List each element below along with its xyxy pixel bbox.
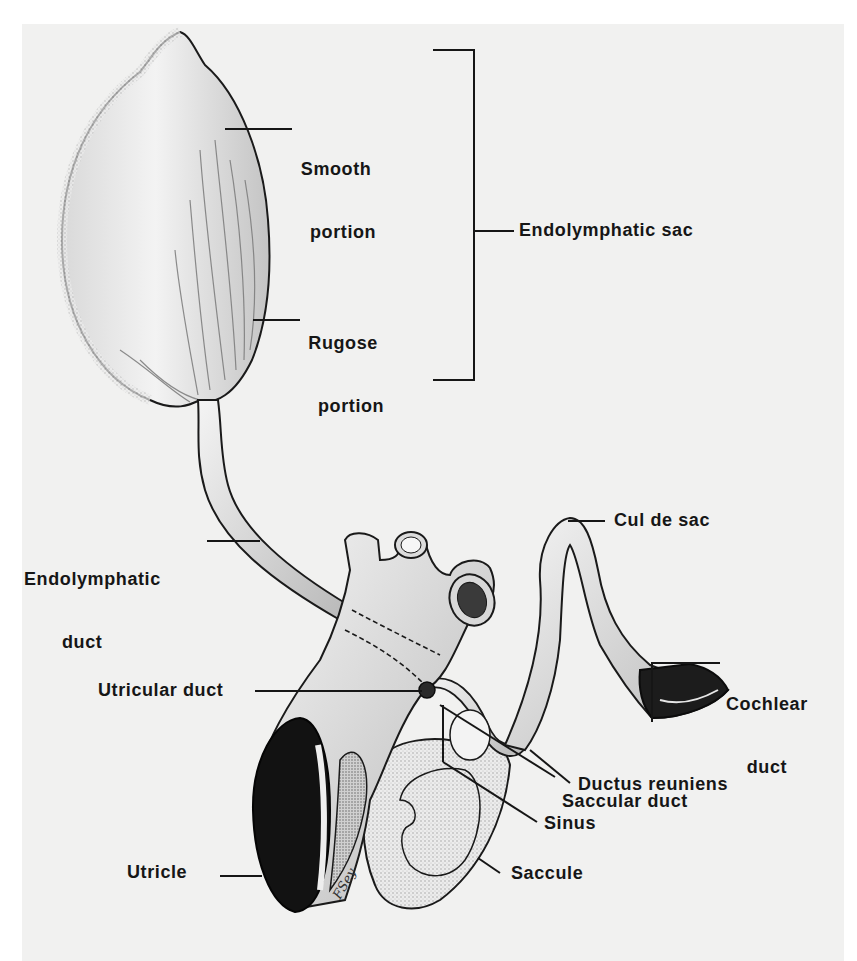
label-rugose-portion: Rugose portion — [302, 291, 384, 438]
label-cochlear-duct-line2: duct — [726, 757, 808, 778]
label-endolymphatic-sac: Endolymphatic sac — [519, 220, 693, 241]
label-utricle: Utricle — [127, 862, 187, 883]
label-saccular-duct-text: Saccular duct — [562, 791, 688, 812]
label-rugose-portion-line2: portion — [302, 396, 384, 417]
label-cul-de-sac: Cul de sac — [614, 510, 710, 531]
label-rugose-portion-line1: Rugose — [302, 333, 384, 354]
endolymphatic-sac-shape — [62, 32, 269, 407]
label-cochlear-duct: Cochlear duct — [726, 652, 808, 799]
label-endolymphatic-duct-line2: duct — [24, 632, 161, 653]
label-sinus: Sinus — [544, 813, 596, 834]
label-endolymphatic-duct-line1: Endolymphatic — [24, 569, 161, 590]
label-smooth-portion-line2: portion — [296, 222, 376, 243]
label-smooth-portion-line1: Smooth — [296, 159, 376, 180]
label-utricular-duct: Utricular duct — [98, 680, 223, 701]
label-endolymphatic-duct: Endolymphatic duct — [24, 527, 161, 674]
label-smooth-portion: Smooth portion — [296, 117, 376, 264]
label-saccule: Saccule — [511, 863, 583, 884]
ductus-reuniens-shape — [505, 518, 728, 750]
label-cochlear-duct-line1: Cochlear — [726, 694, 808, 715]
